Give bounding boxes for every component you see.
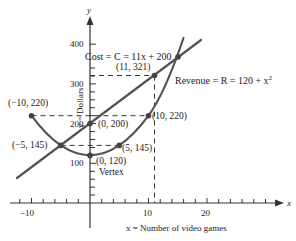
y-tick-400: 400	[70, 39, 84, 49]
revenue-equation-exponent: 2	[269, 74, 273, 82]
x-axis-arrow-icon	[275, 200, 284, 207]
x-tick-10: 10	[143, 208, 153, 218]
x-tick-20: 20	[201, 208, 211, 218]
label-0-120: (0, 120)	[96, 156, 126, 167]
x-axis-title: x = Number of video games	[126, 223, 227, 233]
point-intersection	[175, 54, 181, 60]
y-tick-100: 100	[70, 158, 84, 168]
data-points	[29, 54, 181, 158]
revenue-equation-text: Revenue = R = 120 + x	[175, 75, 269, 86]
label-0-200: (0, 200)	[98, 119, 128, 130]
point-0-120	[87, 153, 93, 159]
point-neg10-220	[29, 113, 35, 119]
label-11-321: (11, 321)	[116, 62, 150, 73]
point-11-321	[152, 73, 158, 79]
label-neg5-145: (−5, 145)	[12, 140, 47, 151]
x-tick-neg10: −10	[20, 208, 35, 218]
axes	[10, 16, 284, 228]
label-neg10-220: (−10, 220)	[8, 98, 48, 109]
x-ticks	[20, 198, 266, 203]
point-neg5-145	[58, 143, 64, 149]
x-axis-name: x	[286, 198, 291, 208]
y-axis-name: y	[86, 5, 91, 15]
label-5-145: (5, 145)	[122, 143, 152, 154]
point-0-200	[87, 121, 93, 127]
cost-equation-label: Cost = C = 11x + 200	[85, 51, 172, 62]
label-10-220: (10, 220)	[152, 111, 187, 122]
cost-revenue-chart: y x 400 300 200 100 −10 10 20 y = Dollar…	[0, 0, 296, 241]
y-axis-title: y = Dollars	[75, 87, 85, 128]
point-10-220	[146, 113, 152, 119]
label-vertex: Vertex	[99, 167, 124, 177]
revenue-equation-label: Revenue = R = 120 + x2	[175, 74, 273, 86]
y-axis-arrow-icon	[87, 16, 94, 25]
